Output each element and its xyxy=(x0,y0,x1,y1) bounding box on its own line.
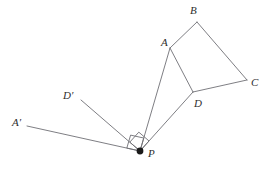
vertex-label-a-prime: A′ xyxy=(12,117,21,128)
segment-CD xyxy=(193,80,247,92)
point-markers-group xyxy=(137,148,144,155)
segment-BC xyxy=(197,22,247,80)
segment-DA xyxy=(170,48,193,92)
vertex-label-b: B xyxy=(190,5,197,16)
vertex-label-a: A xyxy=(161,37,168,48)
vertex-label-d: D xyxy=(194,98,202,109)
vertex-label-d-prime: D′ xyxy=(63,90,73,101)
segment-PA-prime xyxy=(27,126,140,151)
vertex-label-c: C xyxy=(251,77,258,88)
segment-PA xyxy=(140,48,170,151)
diagram-canvas xyxy=(0,0,268,171)
point-marker-P xyxy=(137,148,144,155)
geometry-figure: A B C D A′ D′ P xyxy=(0,0,268,171)
segments-group xyxy=(27,22,247,151)
vertex-label-p: P xyxy=(148,148,155,159)
segment-AB xyxy=(170,22,197,48)
right-angle-marks-group xyxy=(127,132,149,151)
